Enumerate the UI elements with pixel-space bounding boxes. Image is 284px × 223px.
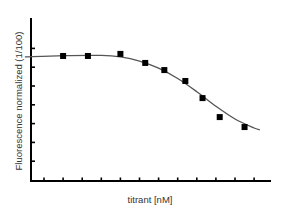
axes (30, 18, 271, 182)
chart-canvas (0, 0, 284, 223)
data-markers (60, 51, 247, 130)
data-point-marker (161, 67, 167, 73)
fit-curve (25, 55, 260, 130)
data-point-marker (60, 53, 66, 59)
y-axis-label: Fluorescence normalized (1/100) (13, 32, 24, 171)
data-point-marker (182, 78, 188, 84)
data-point-marker (200, 95, 206, 101)
data-point-marker (217, 114, 223, 120)
data-point-marker (117, 51, 123, 57)
data-point-marker (242, 124, 248, 130)
data-point-marker (142, 60, 148, 66)
data-point-marker (85, 53, 91, 59)
x-axis-label: titrant [nM] (128, 194, 173, 205)
